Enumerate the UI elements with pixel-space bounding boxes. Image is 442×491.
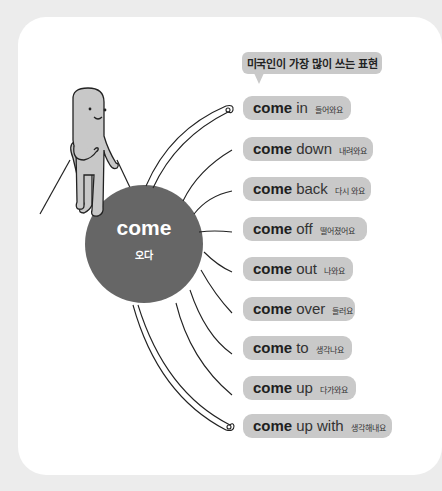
phrase-verb: come [253,297,292,321]
support-line [40,160,70,214]
phrase-meaning: 들어와요 [315,99,343,123]
center-meaning: 오다 [86,247,202,262]
title-bubble: 미국인이 가장 많이 쓰는 표현 [242,52,382,74]
center-word: come [86,216,202,240]
phrase-pill-come-up-with: come up with 생각해내요 [243,414,392,438]
phrase-pill-come-out: come out 나와요 [243,257,353,281]
phrase-meaning: 떨어졌어요 [320,220,355,244]
phrase-verb: come [253,217,292,241]
title-text: 미국인이 가장 많이 쓰는 표현 [247,55,378,71]
phrase-verb: come [253,414,292,438]
phrase-meaning: 내려와요 [339,140,367,164]
phrase-meaning: 생각나요 [316,339,344,363]
bottom-bracket [133,305,234,431]
phrase-meaning: 다가와요 [320,379,348,403]
phrase-particle: in [296,96,308,120]
phrase-pill-come-over: come over 들러요 [243,297,355,321]
phrase-meaning: 나와요 [324,260,345,284]
eye-icon [89,108,92,111]
phrase-pill-come-to: come to 생각나요 [243,336,352,360]
phrase-meaning: 들러요 [332,300,353,324]
phrase-pill-come-down: come down 내려와요 [243,137,373,161]
phrase-particle: down [296,137,332,161]
phrase-pill-come-back: come back 다시 와요 [243,177,371,201]
phrase-meaning: 다시 와요 [335,180,366,204]
phrase-verb: come [253,177,292,201]
phrase-verb: come [253,376,292,400]
top-bracket [146,106,233,189]
phrase-particle: out [296,257,317,281]
phrase-particle: up [296,376,313,400]
phrase-pill-come-up: come up 다가와요 [243,376,356,400]
eye-icon [104,109,107,112]
phrase-meaning: 생각해내요 [351,417,386,441]
phrase-verb: come [253,96,292,120]
phrase-particle: over [296,297,325,321]
phrase-verb: come [253,257,292,281]
phrase-verb: come [253,336,292,360]
phrase-particle: off [296,217,312,241]
phrase-pill-come-off: come off 떨어졌어요 [243,217,367,241]
phrase-pill-come-in: come in 들어와요 [243,96,351,120]
phrase-verb: come [253,137,292,161]
phrase-particle: to [296,336,309,360]
phrase-particle: up with [296,414,344,438]
phrase-particle: back [296,177,328,201]
